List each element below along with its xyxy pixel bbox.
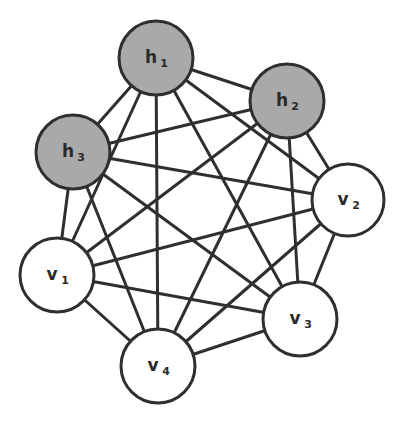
node-v4: v4 — [121, 329, 195, 403]
node-label-h3: h — [62, 141, 74, 161]
node-subscript-v1: 1 — [61, 274, 69, 287]
node-v3: v3 — [263, 282, 337, 356]
node-subscript-h3: 3 — [77, 151, 85, 164]
graph-diagram: h1h2h3v2v1v3v4 — [0, 0, 406, 424]
node-label-v4: v — [147, 355, 158, 375]
node-v1: v1 — [20, 238, 94, 312]
node-label-v2: v — [337, 189, 348, 209]
node-subscript-h1: 1 — [160, 57, 168, 70]
node-label-h2: h — [276, 90, 288, 110]
node-h2: h2 — [250, 64, 324, 138]
nodes-layer: h1h2h3v2v1v3v4 — [20, 21, 384, 403]
node-v2: v2 — [312, 164, 384, 236]
node-label-h1: h — [145, 47, 157, 67]
node-label-v1: v — [46, 264, 57, 284]
node-h1: h1 — [119, 21, 193, 95]
node-subscript-v4: 4 — [162, 365, 170, 378]
node-subscript-v3: 3 — [304, 318, 312, 331]
node-subscript-v2: 2 — [352, 199, 360, 212]
node-h3: h3 — [36, 115, 110, 189]
node-subscript-h2: 2 — [291, 100, 299, 113]
node-label-v3: v — [289, 308, 300, 328]
